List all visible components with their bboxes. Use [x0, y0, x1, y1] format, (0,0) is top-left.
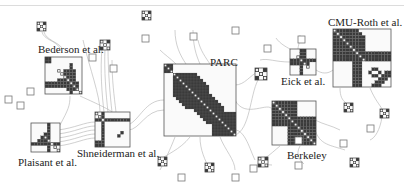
singleton-node	[232, 27, 239, 34]
link-edge	[198, 40, 210, 64]
link-edge	[265, 146, 280, 158]
link-edge	[340, 88, 346, 103]
link-edge	[128, 110, 164, 130]
link-edge	[276, 38, 292, 50]
link-edge	[101, 48, 104, 112]
link-edge	[220, 137, 235, 170]
singleton-node	[5, 96, 12, 103]
link-edge	[105, 48, 108, 112]
label-shneiderman: Shneiderman et al.	[77, 148, 159, 159]
link-edge	[235, 72, 258, 85]
link-edge	[370, 88, 382, 109]
label-plaisant: Plaisant et al.	[18, 157, 77, 168]
link-edge	[235, 80, 258, 135]
singleton-node	[295, 162, 302, 169]
singleton-node	[89, 54, 96, 61]
link-edge	[235, 100, 272, 110]
link-edge	[58, 130, 95, 138]
singleton-node	[27, 88, 34, 95]
singleton-node	[190, 33, 197, 40]
link-edge	[108, 48, 112, 112]
link-edge	[58, 134, 95, 142]
label-bederson: Bederson et al.	[38, 44, 104, 55]
link-edge	[58, 138, 95, 146]
label-parc: PARC	[210, 57, 238, 68]
singleton-node	[232, 174, 239, 181]
singleton-node	[250, 165, 257, 172]
singleton-node	[178, 174, 185, 181]
link-edge	[260, 59, 290, 62]
link-edge	[316, 70, 333, 73]
diagram-canvas: Bederson et al. Plaisant et al. Shneider…	[0, 0, 404, 189]
singleton-node	[17, 102, 24, 109]
link-edge	[58, 122, 95, 130]
label-berkeley: Berkeley	[287, 150, 327, 161]
link-edge	[175, 30, 186, 64]
link-edge	[60, 96, 70, 125]
singleton-node	[110, 65, 117, 72]
link-edge	[160, 50, 176, 64]
singleton-node	[340, 140, 347, 147]
singleton-node	[264, 45, 271, 52]
link-edge	[58, 126, 95, 134]
label-eick: Eick et al.	[281, 76, 325, 87]
singleton-node	[142, 35, 149, 42]
label-cmu-roth: CMU-Roth et al.	[328, 17, 402, 28]
link-edge	[235, 130, 255, 160]
link-edge	[315, 120, 340, 130]
singleton-node	[298, 36, 305, 43]
link-edge	[160, 137, 190, 160]
link-edge	[128, 100, 164, 125]
singleton-node	[367, 125, 374, 132]
singleton-node	[295, 137, 302, 144]
